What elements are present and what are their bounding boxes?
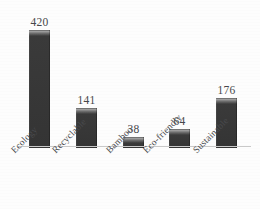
bar-value-ecology: 420 [31,16,49,28]
bar-value-sustainable: 176 [218,84,236,96]
bar-value-recyclable: 141 [78,94,96,106]
category-axis-labels: Ecology Recyclable Bamboo Eco-friendly S… [0,148,260,209]
bar-chart-figure: 420 141 38 64 176 Ecology Recyclable Bam… [0,0,260,209]
